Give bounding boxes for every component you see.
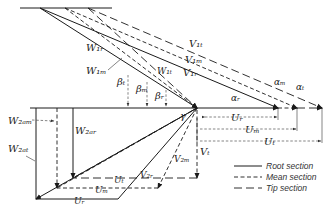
velocity-triangle-diagram: Uᵣ Uₘ Uₜ Vₜ W₁ᵣ W₁ₘ W₁ₜ V₁ₜ V₁ₘ V₁ᵣ βₜ β… xyxy=(0,0,332,209)
w2am-leader xyxy=(32,120,54,121)
label-ut-bottom: Uₜ xyxy=(114,175,125,185)
label-w1t: W₁ₜ xyxy=(157,66,173,76)
legend-root-label: Root section xyxy=(266,161,314,171)
label-v1r: V₁ᵣ xyxy=(183,67,198,78)
label-w1m: W₁ₘ xyxy=(86,65,106,76)
label-um: Uₘ xyxy=(245,124,260,135)
label-alpha-t: αₜ xyxy=(296,82,305,92)
w1m-leader xyxy=(108,58,122,70)
v1t-vector xyxy=(88,8,322,108)
label-vt: Vₜ xyxy=(200,146,210,157)
label-beta-r: βᵣ xyxy=(154,90,165,101)
label-v2r: V₂ᵣ xyxy=(140,170,153,180)
label-v1t: V₁ₜ xyxy=(189,38,203,49)
label-ur: Uᵣ xyxy=(231,112,243,123)
label-v1m: V₁ₘ xyxy=(185,54,202,65)
label-w2at: W₂ₐₜ xyxy=(8,143,29,154)
label-w1r: W₁ᵣ xyxy=(86,42,104,53)
v2m-vector xyxy=(158,108,197,188)
label-gamma: γ xyxy=(180,110,186,121)
legend-tip-label: Tip section xyxy=(266,183,307,193)
label-beta-t: βₜ xyxy=(116,76,126,87)
w1m-vector xyxy=(65,8,197,108)
label-um-bottom: Uₘ xyxy=(95,185,108,195)
w1r-vector xyxy=(40,8,197,108)
label-beta-m: βₘ xyxy=(135,83,148,94)
label-alpha-m: αₘ xyxy=(274,77,286,87)
legend-mean-label: Mean section xyxy=(266,172,317,182)
legend: Root section Mean section Tip section xyxy=(234,161,317,193)
label-w2am: W₂ₐₘ xyxy=(8,115,32,126)
w2at-leader xyxy=(26,156,35,161)
label-ut: Uₜ xyxy=(264,136,275,147)
label-alpha-r: αᵣ xyxy=(231,93,240,103)
label-v2m: V₂ₘ xyxy=(174,154,190,164)
label-w2ar: W₂ₐᵣ xyxy=(75,125,97,136)
label-ur-bottom: Uᵣ xyxy=(74,196,85,206)
